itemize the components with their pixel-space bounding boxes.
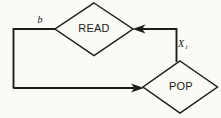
flowchart-figure: READ POP b X i xyxy=(0,0,221,118)
edge-label-x-subscript: i xyxy=(186,43,188,51)
read-label: READ xyxy=(78,22,109,34)
edge-label-b: b xyxy=(38,14,43,25)
edge-label-x: X xyxy=(177,38,185,49)
loop-back-edge xyxy=(14,28,145,93)
node-read[interactable]: READ xyxy=(55,3,133,56)
node-pop[interactable]: POP xyxy=(143,61,218,113)
pop-label: POP xyxy=(169,80,193,92)
edge-label-x-subscript-i: X i xyxy=(177,38,188,51)
read-to-pop-edge xyxy=(133,25,177,63)
flowchart-canvas: READ POP b X i xyxy=(0,0,221,118)
